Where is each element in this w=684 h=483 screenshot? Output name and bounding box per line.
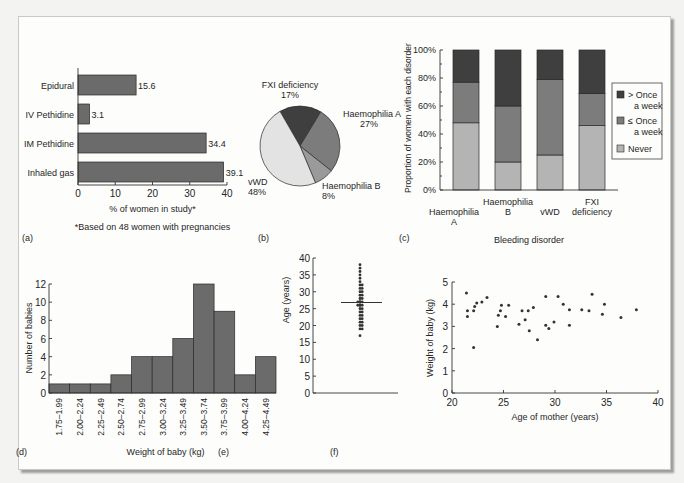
y-tick-label: 80% [418, 73, 436, 83]
x-tick-label: 30 [549, 397, 561, 408]
category-label: IM Pethidine [24, 139, 74, 149]
y-tick-label: 8 [40, 315, 46, 326]
x-tick-label: 0 [75, 188, 81, 199]
scatter-point [544, 295, 547, 298]
bar-epidural [78, 75, 136, 95]
category-label: vWD [540, 207, 560, 217]
bin-label: 2.00–2.24 [75, 398, 85, 436]
y-tick-label: 35 [299, 270, 311, 281]
data-dot [359, 277, 362, 280]
slice-percent: 48% [248, 187, 266, 197]
scatter-point [552, 320, 555, 323]
value-label: 3.1 [92, 110, 105, 120]
legend-label: a week [634, 127, 663, 137]
category-label: Haemophilia [429, 207, 479, 217]
stack-segment [537, 155, 563, 190]
data-dot [356, 304, 359, 307]
histogram-bin [49, 384, 70, 393]
x-tick-label: 40 [221, 188, 233, 199]
category-label: Inhaled gas [27, 168, 74, 178]
slice-percent: 8% [322, 191, 335, 201]
scatter-point [499, 309, 502, 312]
data-dot [361, 294, 364, 297]
bin-label: 1.75–1.99 [54, 398, 64, 436]
data-dot [361, 314, 364, 317]
data-dot [361, 287, 364, 290]
y-axis-title: Number of babies [24, 302, 34, 374]
y-tick-label: 40% [418, 129, 436, 139]
scatter-point [521, 309, 524, 312]
scatter-point [507, 304, 510, 307]
y-tick-label: 0% [423, 185, 436, 195]
histogram-bin [193, 284, 214, 393]
y-tick-label: 5 [304, 371, 310, 382]
stack-segment [537, 79, 563, 155]
histogram-bin [70, 384, 91, 393]
scatter-point [475, 302, 478, 305]
panel-f-age-weight-scatter: 0123452025303540Age of mother (years)Wei… [425, 277, 664, 422]
value-label: 34.4 [208, 139, 226, 149]
legend-label: > Once [628, 90, 657, 100]
scatter-point [568, 324, 571, 327]
scatter-point [557, 295, 560, 298]
histogram-bin [235, 375, 256, 393]
category-label: A [451, 217, 457, 227]
stack-segment [453, 82, 479, 123]
bin-label: 3.75–3.99 [219, 398, 229, 436]
y-tick-label: 4 [40, 352, 46, 363]
histogram-bin [255, 357, 276, 393]
y-tick-label: 100% [413, 45, 436, 55]
scatter-point [480, 300, 483, 303]
scatter-point [527, 309, 530, 312]
bin-label: 2.25–2.49 [96, 398, 106, 436]
panel-e-age-dot-plot: 0510152025303540Age (years) [281, 253, 398, 399]
x-tick-label: 20 [446, 397, 458, 408]
stack-segment [579, 50, 605, 93]
category-label: Epidural [41, 81, 74, 91]
panel-label-d: (d) [16, 447, 27, 457]
category-label: Haemophilia [483, 197, 533, 207]
data-dot [359, 280, 362, 283]
slice-percent: 27% [360, 119, 378, 129]
scatter-point [497, 314, 500, 317]
y-tick-label: 3 [442, 321, 448, 332]
slice-percent: 17% [281, 90, 299, 100]
x-tick-label: 35 [601, 397, 613, 408]
x-tick-label: 20 [147, 188, 159, 199]
stack-segment [537, 50, 563, 79]
y-tick-label: 5 [442, 277, 448, 288]
scatter-point [580, 308, 583, 311]
data-dot [361, 304, 364, 307]
y-tick-label: 20 [299, 321, 311, 332]
y-tick-label: 40 [299, 253, 311, 264]
y-tick-label: 10 [35, 297, 47, 308]
scatter-point [587, 309, 590, 312]
category-label: B [505, 207, 511, 217]
legend-label: ≤ Once [628, 116, 657, 126]
y-axis-title: Proportion of women with each disorder [403, 43, 413, 193]
y-tick-label: 12 [35, 279, 47, 290]
bin-label: 3.00–3.24 [158, 398, 168, 436]
y-axis-title: Age (years) [281, 277, 291, 324]
scatter-point [619, 316, 622, 319]
data-dot [361, 324, 364, 327]
slice-label: FXI deficiency [262, 80, 319, 90]
scatter-point [500, 304, 503, 307]
y-tick-label: 30 [299, 287, 311, 298]
data-dot [361, 327, 364, 330]
panel-c-stacked-bar-chart: HaemophiliaAHaemophiliaBvWDFXIdeficiency… [403, 43, 663, 245]
data-dot [361, 317, 364, 320]
data-dot [359, 270, 362, 273]
bin-label: 3.25–3.49 [178, 398, 188, 436]
data-dot [361, 321, 364, 324]
scatter-point [517, 323, 520, 326]
scatter-point [486, 296, 489, 299]
stack-segment [495, 162, 521, 190]
stack-segment [453, 123, 479, 190]
bar-iv-pethidine [78, 104, 90, 124]
panel-a-analgesia-bar-chart: Epidural15.6IV Pethidine3.1IM Pethidine3… [24, 68, 243, 232]
scatter-point [473, 305, 476, 308]
panel-label-c: (c) [399, 233, 410, 243]
bin-label: 2.50–2.74 [116, 398, 126, 436]
scatter-point [524, 318, 527, 321]
